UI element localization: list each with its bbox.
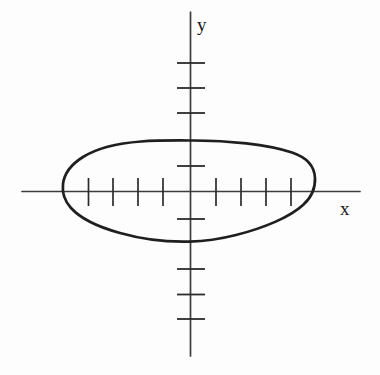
- ellipse-plot: y x: [0, 0, 380, 375]
- x-axis-label: x: [340, 198, 350, 219]
- y-axis-label: y: [197, 14, 207, 35]
- figure-canvas: y x: [0, 0, 380, 375]
